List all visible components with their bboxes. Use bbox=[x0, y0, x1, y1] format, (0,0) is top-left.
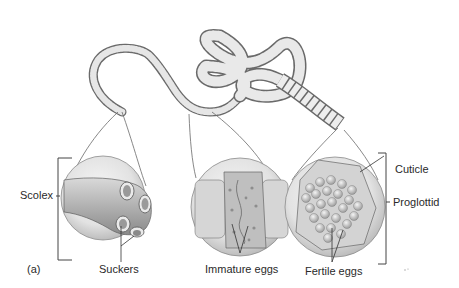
label-fertile-eggs: Fertile eggs bbox=[305, 266, 362, 277]
label-cuticle: Cuticle bbox=[395, 164, 429, 175]
panel-label: (a) bbox=[27, 264, 40, 275]
label-suckers: Suckers bbox=[99, 264, 139, 275]
scan-artifact bbox=[404, 268, 408, 270]
label-scolex: Scolex bbox=[20, 190, 53, 201]
immature-proglottid-inset bbox=[191, 158, 289, 256]
worm-body bbox=[93, 35, 340, 124]
scolex-inset bbox=[56, 156, 151, 262]
label-proglottid: Proglottid bbox=[393, 197, 439, 208]
label-immature-eggs: Immature eggs bbox=[205, 264, 278, 275]
tapeworm-diagram: Scolex Suckers Immature eggs Fertile egg… bbox=[0, 0, 459, 288]
mature-proglottid-inset bbox=[285, 153, 390, 264]
